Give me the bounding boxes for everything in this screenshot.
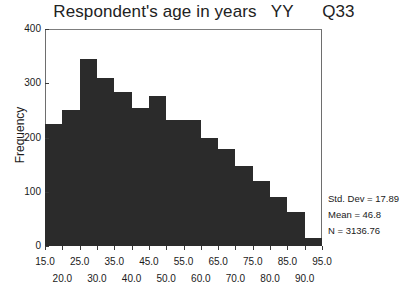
y-axis-tick-label: 0 <box>11 241 41 251</box>
histogram-bar <box>62 110 79 246</box>
histogram-bar <box>235 166 252 246</box>
histogram-bar <box>97 78 114 246</box>
histogram-bar <box>132 108 149 246</box>
x-axis-tick-mark <box>235 246 236 250</box>
y-axis-tick-mark <box>45 29 49 30</box>
histogram-bar <box>218 149 235 246</box>
x-axis-tick-mark <box>80 246 81 250</box>
statistics-box: Std. Dev = 17.89 Mean = 46.8 N = 3136.76 <box>328 191 408 239</box>
stat-mean: Mean = 46.8 <box>328 207 408 223</box>
x-axis-tick-mark <box>322 246 323 250</box>
x-axis-tick-mark <box>166 246 167 250</box>
histogram-chart: Respondent's age in years YY Q33 0100200… <box>0 0 408 305</box>
histogram-bar <box>166 120 183 246</box>
y-axis-tick-label: 400 <box>11 24 41 34</box>
x-axis-tick-mark <box>97 246 98 250</box>
stat-std-dev: Std. Dev = 17.89 <box>328 191 408 207</box>
histogram-bar <box>149 96 166 246</box>
histogram-bar <box>80 59 97 246</box>
x-axis-tick-mark <box>132 246 133 250</box>
chart-title: Respondent's age in years YY Q33 <box>0 2 408 22</box>
x-axis-tick-mark <box>218 246 219 250</box>
y-axis-tick-mark <box>45 138 49 139</box>
x-axis-tick-mark <box>305 246 306 250</box>
y-axis-tick-mark <box>45 192 49 193</box>
histogram-bar <box>270 197 287 246</box>
x-axis-tick-mark <box>201 246 202 250</box>
x-axis-tick-mark <box>45 246 46 250</box>
stat-n: N = 3136.76 <box>328 223 408 239</box>
x-axis-tick-mark <box>149 246 150 250</box>
x-axis-tick-label: 90.0 <box>285 273 325 284</box>
x-axis-tick-label: 95.0 <box>302 256 342 267</box>
x-axis-tick-mark <box>114 246 115 250</box>
x-axis-tick-mark <box>253 246 254 250</box>
histogram-bar <box>287 212 304 246</box>
y-axis-title: Frequency <box>13 75 27 195</box>
x-axis-tick-mark <box>270 246 271 250</box>
histogram-bars <box>45 29 322 246</box>
histogram-bar <box>305 238 322 246</box>
x-axis-tick-mark <box>62 246 63 250</box>
x-axis-tick-mark <box>287 246 288 250</box>
histogram-bar <box>114 92 131 246</box>
histogram-bar <box>253 181 270 246</box>
histogram-bar <box>201 138 218 247</box>
y-axis-tick-mark <box>45 83 49 84</box>
histogram-bar <box>45 124 62 246</box>
x-axis-tick-mark <box>184 246 185 250</box>
histogram-bar <box>184 120 201 246</box>
